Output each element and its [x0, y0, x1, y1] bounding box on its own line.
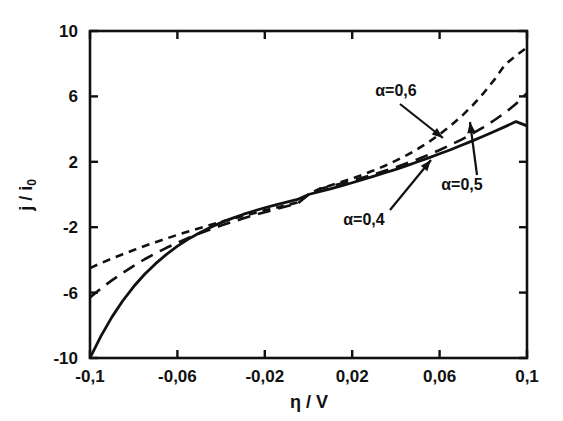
x-tick-label-1: -0,06 [158, 367, 197, 386]
x-tick-label-0: -0,1 [75, 367, 104, 386]
x-axis-title: η / V [290, 392, 328, 412]
data-series-group [90, 47, 527, 358]
y-tick-label-5: 10 [59, 22, 78, 41]
y-tick-label-3: 2 [69, 153, 78, 172]
y-tick-label-4: 6 [69, 87, 78, 106]
series-line-04 [90, 122, 527, 358]
annotations-group: α=0,6α=0,5α=0,4 [343, 82, 483, 228]
x-tick-label-5: 0,1 [515, 367, 539, 386]
chart-canvas: -0,1-0,06-0,020,020,060,1 -10-6-22610 α=… [0, 0, 563, 421]
alpha-06-annotation-label: α=0,6 [375, 82, 417, 99]
y-tick-label-2: -2 [63, 218, 78, 237]
alpha-05-annotation-arrow-head [467, 122, 475, 133]
x-tick-label-4: 0,06 [423, 367, 456, 386]
series-line-06 [90, 47, 527, 268]
figure-container: -0,1-0,06-0,020,020,060,1 -10-6-22610 α=… [0, 0, 563, 421]
x-axis-tick-labels: -0,1-0,06-0,020,020,060,1 [75, 367, 538, 386]
alpha-04-annotation-label: α=0,4 [343, 211, 385, 228]
y-axis-title: j / i0 [16, 179, 39, 212]
x-tick-label-2: -0,02 [245, 367, 284, 386]
alpha-06-annotation: α=0,6 [375, 82, 443, 138]
y-axis-tick-labels: -10-6-22610 [53, 22, 78, 368]
x-tick-label-3: 0,02 [336, 367, 369, 386]
y-tick-label-0: -10 [53, 349, 78, 368]
y-tick-label-1: -6 [63, 284, 78, 303]
alpha-05-annotation-label: α=0,5 [441, 176, 483, 193]
